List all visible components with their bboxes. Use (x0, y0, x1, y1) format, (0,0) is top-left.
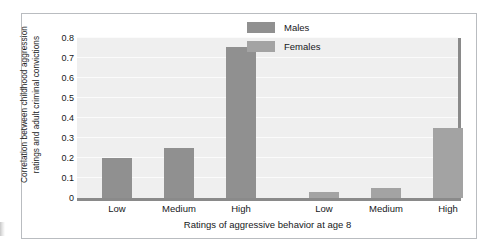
bar (226, 47, 256, 198)
x-axis-tick-label: Low (315, 203, 332, 215)
bar (102, 158, 132, 198)
y-axis-tick-label: 0.2 (44, 154, 74, 163)
y-axis-title-line-2: ratings and adult criminal convictions (30, 12, 42, 198)
legend-swatch (247, 22, 275, 33)
bar (371, 188, 401, 198)
scan-edge-artifact (0, 222, 5, 236)
x-axis-tick-labels: LowMediumHighLowMediumHigh (77, 203, 458, 217)
bar (433, 128, 463, 198)
bar (164, 148, 194, 198)
y-axis-tick-label: 0.3 (44, 134, 74, 143)
y-axis-tick-labels: 00.10.20.30.40.50.60.70.8 (44, 34, 74, 204)
bar (309, 192, 339, 198)
y-axis-tick-label: 0 (44, 194, 74, 203)
y-axis-tick-label: 0.7 (44, 54, 74, 63)
y-axis-tick-label: 0.1 (44, 174, 74, 183)
y-axis-tick-label: 0.6 (44, 74, 74, 83)
legend-item: Males (247, 18, 367, 37)
y-axis-tick-label: 0.5 (44, 94, 74, 103)
legend-label: Males (284, 22, 309, 33)
x-axis-tick-label: Medium (369, 203, 403, 215)
y-axis-title-line-1: Correlation between childhood aggression (19, 12, 31, 198)
x-axis-tick-label: Medium (162, 203, 196, 215)
x-axis-tick-label: Low (108, 203, 125, 215)
legend-item: Females (247, 37, 367, 56)
legend-label: Females (284, 41, 320, 52)
bars-layer (77, 38, 458, 198)
y-axis-tick-label: 0.8 (44, 34, 74, 43)
chart-legend: MalesFemales (247, 18, 367, 56)
legend-swatch (247, 41, 275, 52)
plot-area (77, 38, 461, 201)
x-axis-title: Ratings of aggressive behavior at age 8 (77, 219, 458, 230)
x-axis-tick-label: High (438, 203, 458, 215)
y-axis-title: Correlation between childhood aggression… (19, 12, 42, 198)
x-axis-tick-label: High (231, 203, 251, 215)
y-axis-tick-label: 0.4 (44, 114, 74, 123)
